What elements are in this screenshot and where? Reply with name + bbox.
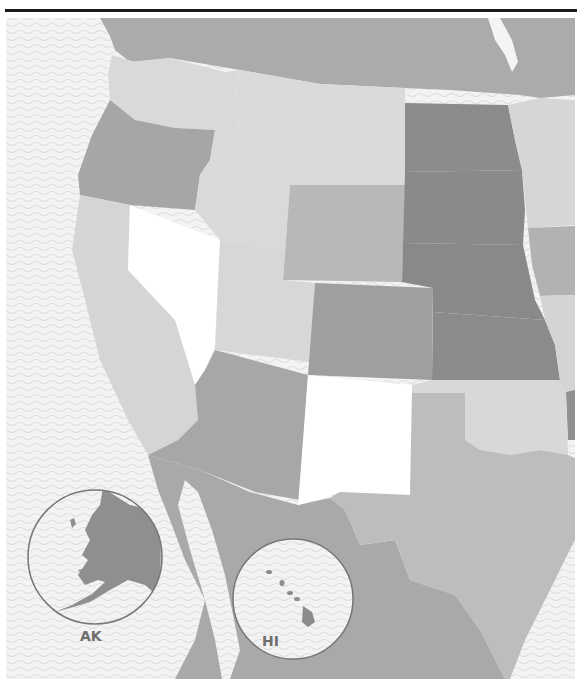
state-sd — [403, 170, 525, 245]
inset-label-ak: AK — [80, 628, 103, 644]
state-nm — [298, 375, 412, 505]
state-nd — [405, 103, 522, 172]
inset-label-hi: HI — [262, 633, 279, 649]
inset-hawaii: HI — [233, 539, 353, 659]
choropleth-map: AK HI — [6, 18, 575, 679]
state-ks — [432, 312, 560, 380]
map-container: AK HI — [6, 18, 575, 679]
header-rule — [5, 9, 577, 12]
state-wy — [283, 185, 405, 282]
state-co — [308, 283, 433, 380]
